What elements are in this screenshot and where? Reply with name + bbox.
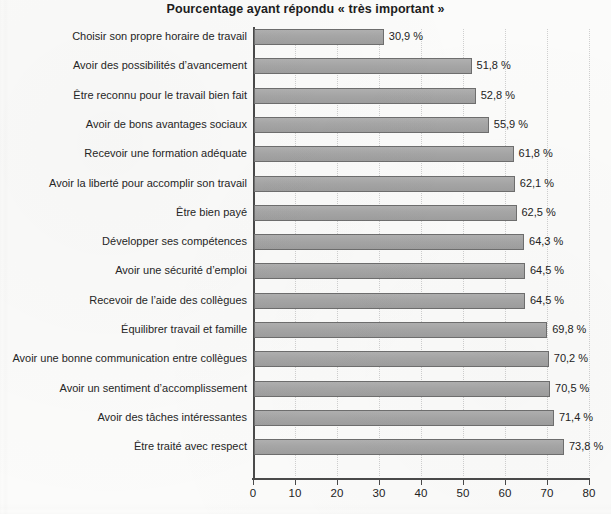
bar (254, 29, 384, 45)
category-label: Avoir une sécurité d’emploi (4, 262, 247, 278)
bar-row: Avoir une sécurité d’emploi64,5 % (0, 263, 611, 279)
bar-row: Avoir la liberté pour accomplir son trav… (0, 176, 611, 192)
bar (254, 439, 564, 455)
category-label: Être traité avec respect (4, 438, 247, 454)
bar (254, 88, 476, 104)
category-label: Recevoir une formation adéquate (4, 145, 247, 161)
category-label: Recevoir de l’aide des collègues (4, 292, 247, 308)
bar-row: Équilibrer travail et famille69,8 % (0, 322, 611, 338)
tick-mark (295, 480, 296, 485)
bar-value-label: 52,8 % (481, 87, 515, 103)
bar (254, 381, 550, 397)
bar-value-label: 73,8 % (569, 438, 603, 454)
bar-row: Être reconnu pour le travail bien fait52… (0, 88, 611, 104)
bar (254, 205, 517, 221)
bar-value-label: 55,9 % (494, 116, 528, 132)
tick-label: 20 (317, 487, 357, 499)
bar (254, 176, 515, 192)
bar-rows: Choisir son propre horaire de travail30,… (0, 29, 611, 476)
bar-value-label: 64,3 % (529, 233, 563, 249)
tick-label: 80 (569, 487, 609, 499)
category-label: Avoir des tâches intéressantes (4, 409, 247, 425)
bar-row: Recevoir de l’aide des collègues64,5 % (0, 293, 611, 309)
bar (254, 263, 525, 279)
bar-value-label: 70,5 % (555, 380, 589, 396)
bar-row: Être traité avec respect73,8 % (0, 439, 611, 455)
tick-label: 50 (443, 487, 483, 499)
bar-row: Recevoir une formation adéquate61,8 % (0, 146, 611, 162)
category-label: Avoir un sentiment d’accomplissement (4, 380, 247, 396)
category-label: Avoir de bons avantages sociaux (4, 116, 247, 132)
tick-label: 10 (275, 487, 315, 499)
category-label: Être reconnu pour le travail bien fait (4, 87, 247, 103)
bar-value-label: 70,2 % (554, 350, 588, 366)
bar-value-label: 64,5 % (530, 292, 564, 308)
bar (254, 351, 549, 367)
chart-title: Pourcentage ayant répondu « très importa… (0, 2, 611, 16)
tick-label: 60 (485, 487, 525, 499)
bar (254, 410, 554, 426)
bar-row: Avoir des possibilités d’avancement51,8 … (0, 58, 611, 74)
category-label: Avoir une bonne communication entre coll… (4, 350, 247, 366)
bar-value-label: 62,5 % (522, 204, 556, 220)
bar (254, 146, 514, 162)
category-label: Être bien payé (4, 204, 247, 220)
bar-row: Avoir des tâches intéressantes71,4 % (0, 410, 611, 426)
bar-row: Avoir de bons avantages sociaux55,9 % (0, 117, 611, 133)
bar-row: Avoir une bonne communication entre coll… (0, 351, 611, 367)
category-label: Avoir la liberté pour accomplir son trav… (4, 175, 247, 191)
tick-label: 30 (359, 487, 399, 499)
bar-row: Être bien payé62,5 % (0, 205, 611, 221)
bar-value-label: 30,9 % (389, 28, 423, 44)
bar-value-label: 61,8 % (519, 145, 553, 161)
x-axis-ticks: 01020304050607080 (0, 480, 611, 510)
category-label: Choisir son propre horaire de travail (4, 28, 247, 44)
bar-value-label: 69,8 % (552, 321, 586, 337)
bar (254, 234, 524, 250)
category-label: Avoir des possibilités d’avancement (4, 57, 247, 73)
category-label: Équilibrer travail et famille (4, 321, 247, 337)
bar (254, 117, 489, 133)
bar (254, 322, 547, 338)
bar-value-label: 62,1 % (520, 175, 554, 191)
tick-mark (421, 480, 422, 485)
bar-value-label: 64,5 % (530, 262, 564, 278)
tick-mark (547, 480, 548, 485)
tick-mark (463, 480, 464, 485)
bar-value-label: 71,4 % (559, 409, 593, 425)
bar-row: Avoir un sentiment d’accomplissement70,5… (0, 381, 611, 397)
tick-mark (337, 480, 338, 485)
category-label: Développer ses compétences (4, 233, 247, 249)
bar (254, 58, 472, 74)
tick-label: 70 (527, 487, 567, 499)
bar-row: Développer ses compétences64,3 % (0, 234, 611, 250)
tick-mark (253, 480, 254, 485)
tick-mark (589, 480, 590, 485)
bar-row: Choisir son propre horaire de travail30,… (0, 29, 611, 45)
bar (254, 293, 525, 309)
tick-mark (505, 480, 506, 485)
tick-label: 0 (233, 487, 273, 499)
bar-value-label: 51,8 % (477, 57, 511, 73)
tick-label: 40 (401, 487, 441, 499)
tick-mark (379, 480, 380, 485)
bar-chart: Pourcentage ayant répondu « très importa… (0, 0, 611, 514)
